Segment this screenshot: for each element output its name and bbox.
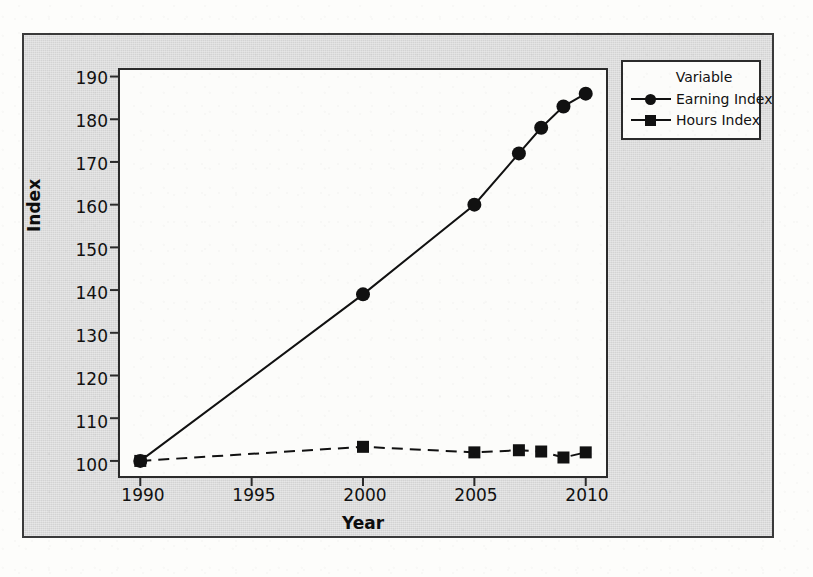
legend-label-earning-index: Earning Index — [671, 91, 772, 107]
y-tick-160: 160 — [62, 197, 108, 217]
legend-title: Variable — [631, 69, 751, 85]
y-axis-title: Index — [24, 179, 44, 232]
y-tick-180: 180 — [62, 111, 108, 131]
chart-screenshot: 190 180 170 160 150 140 130 120 110 100 … — [0, 0, 813, 577]
y-tick-130: 130 — [62, 326, 108, 346]
x-tick-1995: 1995 — [224, 485, 284, 505]
x-tick-1990: 1990 — [113, 485, 173, 505]
y-tick-120: 120 — [62, 369, 108, 389]
y-tick-150: 150 — [62, 240, 108, 260]
x-tick-2005: 2005 — [446, 485, 506, 505]
circle-marker-icon — [631, 92, 671, 106]
x-tick-2010: 2010 — [557, 485, 617, 505]
x-axis-title: Year — [0, 513, 726, 533]
plot-area — [118, 68, 608, 478]
legend-item-earning-index[interactable]: Earning Index — [631, 88, 751, 109]
legend-label-hours-index: Hours Index — [671, 112, 760, 128]
y-tick-170: 170 — [62, 154, 108, 174]
y-tick-100: 100 — [62, 455, 108, 475]
x-tick-2000: 2000 — [335, 485, 395, 505]
square-marker-icon — [631, 113, 671, 127]
y-tick-110: 110 — [62, 412, 108, 432]
y-tick-190: 190 — [62, 68, 108, 88]
y-tick-140: 140 — [62, 283, 108, 303]
legend-item-hours-index[interactable]: Hours Index — [631, 109, 751, 130]
legend: Variable Earning Index Hours Index — [621, 60, 761, 140]
